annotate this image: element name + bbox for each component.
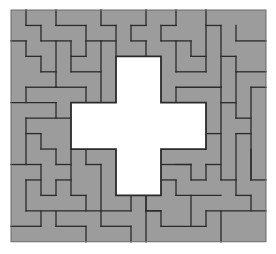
puzzle-board[interactable] [0, 0, 276, 254]
